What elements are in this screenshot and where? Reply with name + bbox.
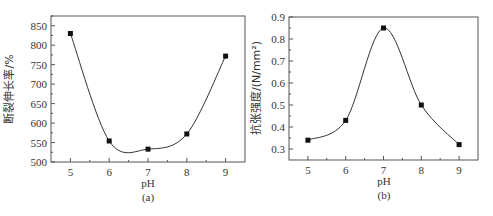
- x-tick-label: 9: [223, 166, 229, 178]
- data-markers-a: [68, 31, 228, 152]
- data-markers-b: [305, 26, 461, 148]
- x-axis-label-a: pH: [141, 177, 155, 189]
- y-tick-label: 850: [31, 20, 48, 32]
- data-point-marker: [305, 138, 310, 143]
- x-axis-b: 56789: [305, 156, 462, 176]
- x-tick-label: 9: [456, 164, 462, 176]
- x-tick-label: 8: [184, 166, 190, 178]
- y-tick-label: 0.4: [271, 121, 285, 133]
- figure: 500550600650700750800850 56789 pH (a) 断裂…: [0, 0, 493, 216]
- chart-panel-b: 0.30.40.50.60.70.80.9 56789 pH (b) 抗张强度/…: [249, 11, 478, 202]
- y-tick-label: 0.9: [271, 11, 285, 23]
- data-point-marker: [107, 138, 112, 143]
- x-axis-a: 56789: [68, 158, 229, 178]
- x-tick-label: 6: [343, 164, 349, 176]
- data-point-marker: [68, 31, 73, 36]
- fitted-curve-b: [308, 28, 459, 145]
- data-point-marker: [419, 103, 424, 108]
- chart-panel-a: 500550600650700750800850 56789 pH (a) 断裂…: [2, 16, 245, 204]
- y-axis-label-b: 抗张强度/(N/mm²): [249, 41, 263, 135]
- y-tick-label: 650: [31, 98, 48, 110]
- plot-frame-b: [289, 17, 478, 160]
- x-tick-label: 5: [68, 166, 74, 178]
- y-tick-label: 600: [31, 117, 48, 129]
- y-tick-label: 0.3: [271, 143, 285, 155]
- y-tick-label: 500: [31, 156, 48, 168]
- y-tick-label: 700: [31, 78, 48, 90]
- x-axis-label-b: pH: [377, 175, 391, 187]
- y-tick-label: 550: [31, 137, 48, 149]
- data-point-marker: [381, 26, 386, 31]
- plot-frame-a: [51, 16, 245, 162]
- data-point-marker: [457, 142, 462, 147]
- x-tick-label: 6: [106, 166, 112, 178]
- panel-caption-b: (b): [378, 189, 391, 202]
- y-tick-label: 0.7: [271, 55, 285, 67]
- data-point-marker: [184, 131, 189, 136]
- y-tick-label: 800: [31, 39, 48, 51]
- fitted-curve-a: [70, 34, 225, 153]
- data-point-marker: [343, 118, 348, 123]
- x-tick-label: 8: [419, 164, 425, 176]
- data-point-marker: [223, 54, 228, 59]
- y-tick-label: 0.6: [271, 77, 285, 89]
- x-tick-label: 5: [305, 164, 311, 176]
- y-tick-label: 0.8: [271, 33, 285, 45]
- panel-caption-a: (a): [142, 191, 155, 204]
- y-axis-b: 0.30.40.50.60.70.80.9: [271, 11, 293, 155]
- y-tick-label: 0.5: [271, 99, 285, 111]
- y-tick-label: 750: [31, 59, 48, 71]
- y-axis-label-a: 断裂伸长率/%: [2, 54, 16, 123]
- data-point-marker: [146, 147, 151, 152]
